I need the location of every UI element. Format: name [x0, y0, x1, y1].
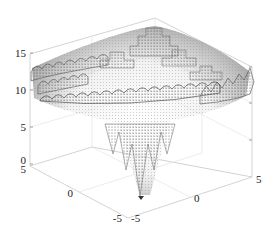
- left-tick-neg5: -5: [113, 212, 123, 224]
- z-axis-labels: 15 10 5 0: [15, 47, 27, 166]
- surface: [31, 26, 254, 200]
- z-tick-5: 5: [21, 121, 27, 133]
- right-tick-5: 5: [256, 173, 262, 185]
- z-tick-10: 10: [15, 84, 27, 96]
- right-tick-0: 0: [194, 192, 200, 204]
- left-tick-0: 0: [68, 187, 74, 199]
- left-tick-5: 5: [21, 163, 27, 175]
- z-tick-15: 15: [15, 47, 27, 59]
- left-axis-labels: 5 0 -5: [21, 163, 123, 224]
- right-tick-neg5: -5: [131, 212, 141, 224]
- surface-plot: 15 10 5 0 5 0 -5 -5 0 5: [0, 0, 274, 238]
